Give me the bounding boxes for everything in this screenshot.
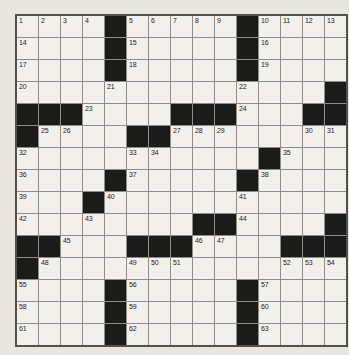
white-square[interactable] xyxy=(149,60,170,81)
white-square[interactable] xyxy=(105,236,126,257)
white-square[interactable] xyxy=(39,302,60,323)
white-square[interactable]: 12 xyxy=(303,16,324,37)
white-square[interactable]: 44 xyxy=(237,214,258,235)
white-square[interactable]: 39 xyxy=(17,192,38,213)
white-square[interactable]: 40 xyxy=(105,192,126,213)
white-square[interactable] xyxy=(61,170,82,191)
white-square[interactable]: 20 xyxy=(17,82,38,103)
white-square[interactable] xyxy=(39,192,60,213)
white-square[interactable]: 1 xyxy=(17,16,38,37)
white-square[interactable] xyxy=(61,60,82,81)
white-square[interactable] xyxy=(193,60,214,81)
white-square[interactable]: 50 xyxy=(149,258,170,279)
white-square[interactable]: 32 xyxy=(17,148,38,169)
white-square[interactable] xyxy=(83,302,104,323)
white-square[interactable] xyxy=(61,148,82,169)
white-square[interactable] xyxy=(83,280,104,301)
white-square[interactable] xyxy=(325,302,346,323)
white-square[interactable] xyxy=(215,60,236,81)
white-square[interactable] xyxy=(193,148,214,169)
white-square[interactable]: 25 xyxy=(39,126,60,147)
white-square[interactable]: 37 xyxy=(127,170,148,191)
white-square[interactable] xyxy=(325,38,346,59)
white-square[interactable] xyxy=(83,324,104,345)
white-square[interactable] xyxy=(325,192,346,213)
white-square[interactable]: 49 xyxy=(127,258,148,279)
white-square[interactable] xyxy=(193,258,214,279)
white-square[interactable] xyxy=(259,126,280,147)
white-square[interactable]: 51 xyxy=(171,258,192,279)
white-square[interactable]: 10 xyxy=(259,16,280,37)
white-square[interactable]: 38 xyxy=(259,170,280,191)
white-square[interactable]: 61 xyxy=(17,324,38,345)
white-square[interactable]: 34 xyxy=(149,148,170,169)
white-square[interactable] xyxy=(325,148,346,169)
white-square[interactable] xyxy=(281,82,302,103)
white-square[interactable]: 6 xyxy=(149,16,170,37)
white-square[interactable] xyxy=(193,82,214,103)
white-square[interactable] xyxy=(39,170,60,191)
white-square[interactable]: 15 xyxy=(127,38,148,59)
white-square[interactable] xyxy=(149,170,170,191)
white-square[interactable]: 14 xyxy=(17,38,38,59)
white-square[interactable] xyxy=(325,170,346,191)
white-square[interactable]: 19 xyxy=(259,60,280,81)
white-square[interactable] xyxy=(61,302,82,323)
white-square[interactable]: 58 xyxy=(17,302,38,323)
white-square[interactable] xyxy=(127,192,148,213)
white-square[interactable]: 56 xyxy=(127,280,148,301)
white-square[interactable]: 3 xyxy=(61,16,82,37)
white-square[interactable]: 13 xyxy=(325,16,346,37)
white-square[interactable] xyxy=(215,38,236,59)
white-square[interactable] xyxy=(39,324,60,345)
white-square[interactable] xyxy=(325,60,346,81)
white-square[interactable] xyxy=(215,258,236,279)
white-square[interactable]: 31 xyxy=(325,126,346,147)
white-square[interactable] xyxy=(215,324,236,345)
white-square[interactable] xyxy=(281,170,302,191)
white-square[interactable]: 27 xyxy=(171,126,192,147)
white-square[interactable] xyxy=(105,104,126,125)
white-square[interactable]: 23 xyxy=(83,104,104,125)
white-square[interactable]: 22 xyxy=(237,82,258,103)
white-square[interactable] xyxy=(259,104,280,125)
white-square[interactable] xyxy=(193,324,214,345)
white-square[interactable] xyxy=(303,192,324,213)
white-square[interactable]: 41 xyxy=(237,192,258,213)
white-square[interactable]: 26 xyxy=(61,126,82,147)
white-square[interactable] xyxy=(259,82,280,103)
white-square[interactable] xyxy=(105,148,126,169)
white-square[interactable] xyxy=(281,38,302,59)
white-square[interactable] xyxy=(61,82,82,103)
white-square[interactable] xyxy=(149,104,170,125)
white-square[interactable] xyxy=(259,192,280,213)
white-square[interactable] xyxy=(259,258,280,279)
white-square[interactable]: 21 xyxy=(105,82,126,103)
white-square[interactable] xyxy=(39,60,60,81)
white-square[interactable] xyxy=(149,214,170,235)
white-square[interactable] xyxy=(171,302,192,323)
white-square[interactable] xyxy=(193,170,214,191)
white-square[interactable] xyxy=(39,38,60,59)
white-square[interactable] xyxy=(325,280,346,301)
white-square[interactable] xyxy=(39,214,60,235)
white-square[interactable]: 35 xyxy=(281,148,302,169)
white-square[interactable]: 16 xyxy=(259,38,280,59)
white-square[interactable]: 30 xyxy=(303,126,324,147)
white-square[interactable] xyxy=(83,170,104,191)
white-square[interactable] xyxy=(171,170,192,191)
white-square[interactable] xyxy=(237,148,258,169)
white-square[interactable]: 63 xyxy=(259,324,280,345)
white-square[interactable] xyxy=(215,170,236,191)
white-square[interactable] xyxy=(281,280,302,301)
white-square[interactable] xyxy=(303,38,324,59)
white-square[interactable]: 46 xyxy=(193,236,214,257)
white-square[interactable] xyxy=(39,82,60,103)
white-square[interactable]: 2 xyxy=(39,16,60,37)
white-square[interactable] xyxy=(303,302,324,323)
white-square[interactable] xyxy=(215,148,236,169)
white-square[interactable] xyxy=(61,258,82,279)
white-square[interactable] xyxy=(149,38,170,59)
white-square[interactable] xyxy=(149,82,170,103)
white-square[interactable] xyxy=(83,126,104,147)
